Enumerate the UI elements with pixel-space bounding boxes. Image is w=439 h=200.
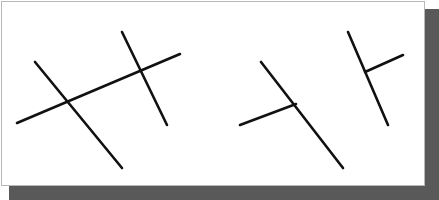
screenshot-root <box>0 0 439 200</box>
white-card-panel <box>1 1 425 186</box>
